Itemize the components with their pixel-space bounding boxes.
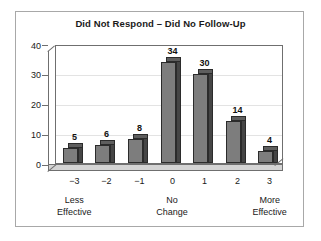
bar-−2[interactable]: [95, 145, 110, 163]
bar-front-face: [193, 74, 208, 163]
bar-value-label-0: 34: [158, 46, 188, 56]
y-tick-label-0: 0: [19, 160, 41, 170]
bar-3[interactable]: [258, 151, 273, 163]
x-tick-label-−3: −3: [60, 176, 90, 186]
chart-floor-right-slant: [275, 157, 285, 166]
x-tick-label-2: 2: [223, 176, 253, 186]
group-label-more: MoreEffective: [235, 194, 305, 218]
bar-1[interactable]: [193, 74, 208, 163]
x-tick-label-−1: −1: [125, 176, 155, 186]
figure: Did Not Respond – Did No Follow-Up 40 30…: [0, 0, 321, 241]
group-label-line1: No: [137, 194, 207, 206]
bar-front-face: [128, 139, 143, 163]
bar-front-face: [258, 151, 273, 163]
bar-side-face: [241, 116, 246, 163]
y-tick-label-40: 40: [19, 41, 41, 51]
bar-value-label-−3: 5: [60, 132, 90, 142]
y-tick-label-30: 30: [19, 70, 41, 80]
chart-floor: [48, 164, 283, 171]
axis-wall: [48, 51, 55, 170]
bar-value-label-1: 30: [190, 58, 220, 68]
x-tick-label-1: 1: [190, 176, 220, 186]
chart-floor-left-slant: [48, 163, 57, 172]
bar-−1[interactable]: [128, 139, 143, 163]
bar-front-face: [95, 145, 110, 163]
bar-front-face: [63, 148, 78, 163]
group-label-line1: More: [235, 194, 305, 206]
bar-−3[interactable]: [63, 148, 78, 163]
group-label-no: NoChange: [137, 194, 207, 218]
x-tick-label-−2: −2: [92, 176, 122, 186]
bar-side-face: [176, 57, 181, 163]
group-label-line2: Change: [137, 206, 207, 218]
bar-value-label-3: 4: [255, 135, 285, 145]
bar-2[interactable]: [226, 121, 241, 163]
group-label-line2: Effective: [39, 206, 109, 218]
x-tick-label-0: 0: [158, 176, 188, 186]
group-label-less: LessEffective: [39, 194, 109, 218]
bar-value-label-−1: 8: [125, 123, 155, 133]
bar-0[interactable]: [161, 62, 176, 163]
group-label-line2: Effective: [235, 206, 305, 218]
bar-value-label-−2: 6: [92, 129, 122, 139]
chart-title: Did Not Respond – Did No Follow-Up: [0, 18, 321, 29]
group-label-line1: Less: [39, 194, 109, 206]
y-tick-label-20: 20: [19, 100, 41, 110]
bar-side-face: [208, 69, 213, 163]
bar-front-face: [161, 62, 176, 163]
y-tick-label-10: 10: [19, 130, 41, 140]
bar-front-face: [226, 121, 241, 163]
bar-value-label-2: 14: [223, 105, 253, 115]
x-tick-label-3: 3: [255, 176, 285, 186]
